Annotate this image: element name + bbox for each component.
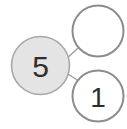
node-top-empty[interactable] bbox=[73, 6, 124, 57]
diagram-svg: 1 5 bbox=[0, 0, 127, 129]
node-top-empty-circle[interactable] bbox=[73, 6, 124, 57]
node-layer: 1 5 bbox=[12, 6, 124, 122]
node-root-5[interactable]: 5 bbox=[12, 37, 70, 95]
node-bottom-1[interactable]: 1 bbox=[73, 71, 124, 122]
diagram-canvas: 1 5 bbox=[0, 0, 127, 129]
node-bottom-1-label: 1 bbox=[90, 82, 106, 113]
node-root-5-label: 5 bbox=[32, 50, 49, 83]
